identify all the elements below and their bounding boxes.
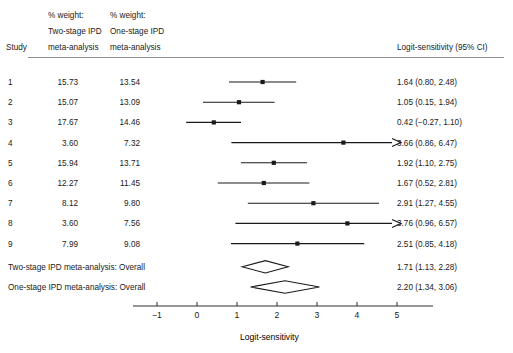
row-weight-two-stage: 17.67 [58,118,79,127]
row-estimate-ci-label: 1.05 (0.15, 1.94) [397,98,457,107]
row-weight-two-stage: 15.07 [58,98,79,107]
x-axis-tick-label: −1 [152,310,162,320]
forest-row: 115.7313.541.64 (0.80, 2.48) [8,78,457,87]
row-study-label: 6 [8,179,13,188]
row-weight-two-stage: 12.27 [58,179,79,188]
row-study-label: 7 [8,199,13,208]
row-weight-one-stage: 13.71 [120,159,141,168]
row-estimate-ci-label: 3.66 (0.86, 6.47) [397,139,457,148]
row-weight-one-stage: 14.46 [120,118,141,127]
row-weight-two-stage: 15.73 [58,78,79,87]
row-study-label: 1 [8,78,13,87]
row-study-label: 9 [8,240,13,249]
forest-row: 83.607.563.76 (0.96, 6.57) [8,219,457,228]
row-weight-one-stage: 13.54 [120,78,141,87]
x-axis-tick-label: 2 [275,310,280,320]
point-estimate-marker [212,120,216,124]
point-estimate-marker [311,201,315,205]
forest-row: 215.0713.091.05 (0.15, 1.94) [8,98,457,107]
point-estimate-marker [295,242,299,246]
forest-row: 515.9413.711.92 (1.10, 2.75) [8,159,457,168]
point-estimate-marker [237,100,241,104]
row-weight-two-stage: 15.94 [58,159,79,168]
summary-estimate-ci-label: 2.20 (1.34, 3.06) [397,283,457,292]
point-estimate-marker [345,221,349,225]
row-estimate-ci-label: 0.42 (−0.27, 1.10) [397,118,462,127]
row-weight-one-stage: 7.56 [124,219,140,228]
x-axis-tick-label: 1 [235,310,240,320]
row-estimate-ci-label: 1.64 (0.80, 2.48) [397,78,457,87]
forest-row: 317.6714.460.42 (−0.27, 1.10) [8,118,462,127]
row-study-label: 4 [8,139,13,148]
x-axis-tick-label: 0 [195,310,200,320]
row-study-label: 8 [8,219,13,228]
summary-study-label: Two-stage IPD meta-analysis: Overall [8,263,145,272]
row-weight-two-stage: 8.12 [62,199,78,208]
row-estimate-ci-label: 1.67 (0.52, 2.81) [397,179,457,188]
point-estimate-marker [272,161,276,165]
forest-summary-row: One-stage IPD meta-analysis: Overall2.20… [8,281,457,293]
row-study-label: 3 [8,118,13,127]
x-axis-tick-label: 5 [395,310,400,320]
forest-row: 43.607.323.66 (0.86, 6.47) [8,139,457,148]
point-estimate-marker [262,181,266,185]
forest-summary-row: Two-stage IPD meta-analysis: Overall1.71… [8,261,457,273]
row-weight-two-stage: 7.99 [62,240,78,249]
row-weight-two-stage: 3.60 [62,139,78,148]
row-estimate-ci-label: 1.92 (1.10, 2.75) [397,159,457,168]
x-axis-tick-label: 3 [315,310,320,320]
row-weight-two-stage: 3.60 [62,219,78,228]
row-estimate-ci-label: 2.91 (1.27, 4.55) [397,199,457,208]
row-estimate-ci-label: 2.51 (0.85, 4.18) [397,240,457,249]
forest-row: 612.2711.451.67 (0.52, 2.81) [8,179,457,188]
row-weight-one-stage: 9.08 [124,240,140,249]
summary-diamond [242,261,288,273]
summary-study-label: One-stage IPD meta-analysis: Overall [8,283,146,292]
x-axis-tick-label: 4 [355,310,360,320]
row-study-label: 2 [8,98,13,107]
row-estimate-ci-label: 3.76 (0.96, 6.57) [397,219,457,228]
summary-diamond [251,281,320,293]
point-estimate-marker [341,141,345,145]
row-weight-one-stage: 7.32 [124,139,140,148]
forest-row: 97.999.082.51 (0.85, 4.18) [8,240,457,249]
row-weight-one-stage: 11.45 [120,179,140,188]
summary-estimate-ci-label: 1.71 (1.13, 2.28) [397,263,457,272]
point-estimate-marker [261,80,265,84]
row-weight-one-stage: 13.09 [120,98,141,107]
row-weight-one-stage: 9.80 [124,199,140,208]
x-axis: −1012345 [133,302,433,320]
forest-row: 78.129.802.91 (1.27, 4.55) [8,199,457,208]
forest-plot-canvas: 115.7313.541.64 (0.80, 2.48)215.0713.091… [0,0,513,353]
row-study-label: 5 [8,159,13,168]
